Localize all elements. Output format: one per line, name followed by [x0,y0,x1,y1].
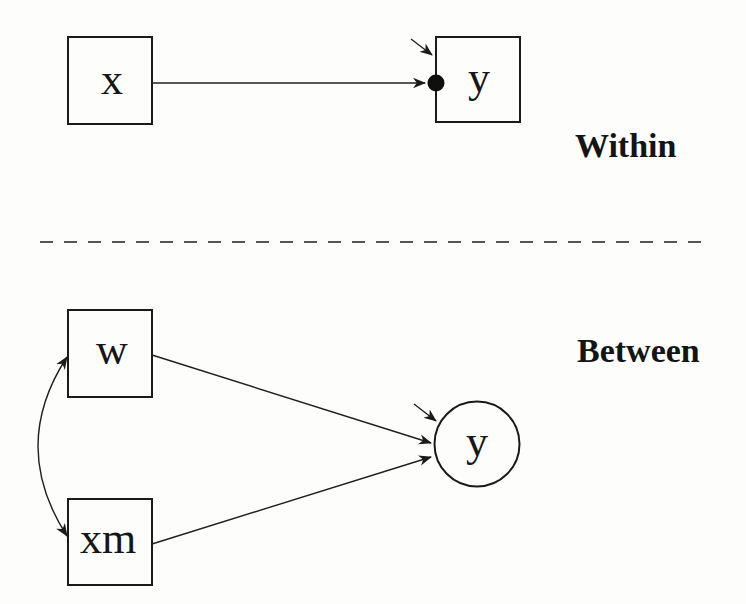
two-level-model-diagram: x y Within w xm y [0,0,746,604]
within-section: x y Within [68,37,677,164]
w-to-y-arrow [152,355,431,443]
y-circle-label: y [466,417,488,466]
y-residual-arrow [411,39,432,55]
y-latent-residual-arrow [414,404,436,421]
between-section: w xm y Between [38,310,700,585]
xm-box-label: xm [80,514,136,563]
w-xm-covariance-arc [38,357,67,536]
path-diagram-figure: x y Within w xm y [0,0,746,604]
y-box-label: y [468,53,490,102]
within-section-label: Within [575,127,677,164]
w-box-label: w [96,325,128,374]
x-box-label: x [101,55,123,104]
between-section-label: Between [577,332,700,369]
xm-to-y-arrow [152,457,431,544]
random-slope-dot [428,75,445,92]
